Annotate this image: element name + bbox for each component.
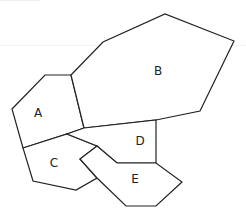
region-b-label: B	[154, 64, 162, 78]
region-b: B	[71, 14, 234, 128]
region-a-label: A	[34, 106, 43, 120]
region-b-shape	[71, 14, 234, 128]
region-map-diagram: A B C D E	[0, 0, 246, 217]
region-e-label: E	[131, 172, 139, 186]
region-c-label: C	[50, 156, 58, 170]
region-d-label: D	[135, 134, 144, 148]
